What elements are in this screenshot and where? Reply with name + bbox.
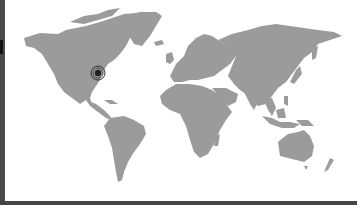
caribbean-islands [104, 100, 118, 104]
location-marker[interactable] [91, 66, 105, 80]
british-isles [166, 52, 174, 64]
greenland [124, 12, 162, 46]
target-pin-icon [95, 70, 101, 76]
southeast-asia [264, 98, 276, 116]
world-map[interactable] [5, 0, 357, 201]
frame-notch [0, 40, 3, 54]
continent-central-america [86, 100, 112, 120]
kamchatka [312, 46, 318, 60]
continent-south-america [104, 116, 146, 182]
new-zealand [324, 158, 334, 172]
borneo [276, 108, 286, 118]
bottom-frame-edge [0, 201, 357, 205]
philippines [284, 96, 288, 106]
continent-australia [278, 130, 314, 162]
tasmania [304, 166, 308, 170]
iceland [154, 40, 164, 46]
new-guinea [296, 120, 314, 126]
